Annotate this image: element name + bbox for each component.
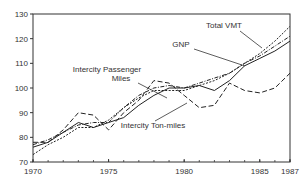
series-gnp <box>33 41 290 147</box>
y-tick-label: 100 <box>15 84 29 93</box>
y-tick-label: 90 <box>19 109 28 118</box>
x-tick-label: 1985 <box>251 167 269 176</box>
x-tick-label: 1970 <box>24 167 42 176</box>
series-lines <box>33 26 290 154</box>
annotation-label: Intercity Passenger <box>73 65 142 74</box>
y-tick-label: 80 <box>19 133 28 142</box>
annotation-label: Miles <box>112 74 131 83</box>
annotation-label: GNP <box>172 40 189 49</box>
annotation-label: Intercity Ton-miles <box>121 121 185 130</box>
x-tick-label: 1975 <box>100 167 118 176</box>
series-total-vmt <box>33 26 290 154</box>
y-tick-label: 120 <box>15 35 29 44</box>
plot-frame <box>33 14 290 162</box>
leader-line <box>194 49 245 66</box>
y-tick-label: 130 <box>15 10 29 19</box>
x-tick-label: 1987 <box>281 167 299 176</box>
y-tick-label: 110 <box>15 59 28 68</box>
series-intercity-ton-miles <box>33 73 290 142</box>
x-tick-label: 1980 <box>175 167 193 176</box>
leader-line <box>240 31 262 48</box>
leader-line <box>155 103 187 121</box>
annotations: Total VMTGNPIntercity PassengerMilesInte… <box>73 21 262 130</box>
line-chart: 70809010011012013019701975198019851987 T… <box>0 0 306 188</box>
annotation-label: Total VMT <box>206 21 242 30</box>
y-tick-label: 70 <box>19 158 28 167</box>
